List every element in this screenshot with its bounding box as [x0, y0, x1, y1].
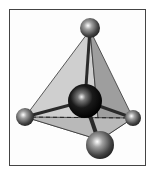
atom-left	[16, 108, 34, 126]
atom-top	[80, 18, 100, 38]
atom-right	[125, 110, 141, 126]
atom-bottom	[86, 131, 114, 159]
atom-central	[68, 84, 102, 118]
face-bottom	[25, 117, 133, 140]
tetrahedron-diagram	[0, 0, 155, 179]
